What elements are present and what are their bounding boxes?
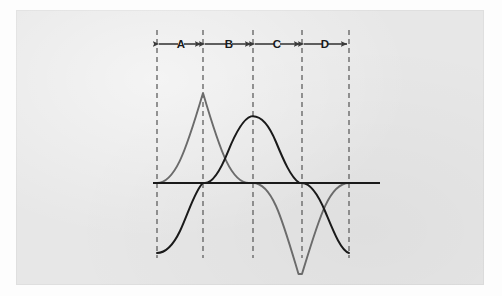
region-label-a: A <box>177 38 185 50</box>
figure-root: A B C D <box>0 0 502 296</box>
region-marker-a: A <box>159 38 201 50</box>
waveform-plot: A B C D <box>0 0 502 296</box>
region-marker-d: D <box>304 38 347 50</box>
region-label-c: C <box>273 38 281 50</box>
region-marker-b: B <box>205 38 251 50</box>
region-label-d: D <box>321 38 329 50</box>
region-label-b: B <box>225 38 233 50</box>
region-marker-c: C <box>255 38 300 50</box>
